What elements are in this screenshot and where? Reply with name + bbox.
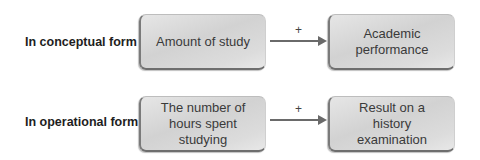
row-label-conceptual: In conceptual form	[25, 35, 137, 49]
positive-relation-sign-conceptual: +	[295, 24, 302, 36]
effect-box-operational: Result on a history examination	[328, 96, 455, 152]
cause-text-conceptual: Amount of study	[156, 34, 250, 50]
effect-text-conceptual: Academic performance	[354, 26, 430, 58]
row-label-operational: In operational form	[25, 115, 138, 129]
cause-text-operational: The number of hours spent studying	[147, 100, 259, 148]
arrow-right-icon	[270, 40, 325, 42]
effect-box-conceptual: Academic performance	[328, 14, 455, 70]
effect-text-operational: Result on a history examination	[342, 100, 442, 148]
arrow-right-icon	[270, 119, 325, 121]
cause-box-operational: The number of hours spent studying	[139, 96, 266, 152]
cause-box-conceptual: Amount of study	[139, 14, 266, 70]
positive-relation-sign-operational: +	[295, 103, 302, 115]
